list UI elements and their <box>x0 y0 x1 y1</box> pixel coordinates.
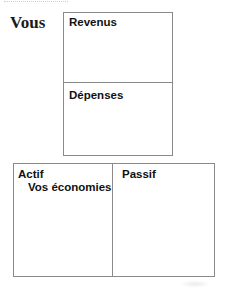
scan-artifact <box>180 280 210 288</box>
income-label: Revenus <box>69 16 117 28</box>
income-expense-panel: Revenus Dépenses <box>63 12 173 156</box>
expenses-label: Dépenses <box>69 89 123 101</box>
assets-label: Actif <box>18 168 44 180</box>
cropped-text-fragment <box>4 0 68 2</box>
horizontal-divider <box>64 82 172 83</box>
page-title: Vous <box>10 13 45 33</box>
balance-sheet-panel: Actif Vos économies Passif <box>13 163 215 277</box>
vertical-divider <box>112 164 113 276</box>
savings-item: Vos économies <box>28 181 112 193</box>
liabilities-label: Passif <box>122 168 156 180</box>
